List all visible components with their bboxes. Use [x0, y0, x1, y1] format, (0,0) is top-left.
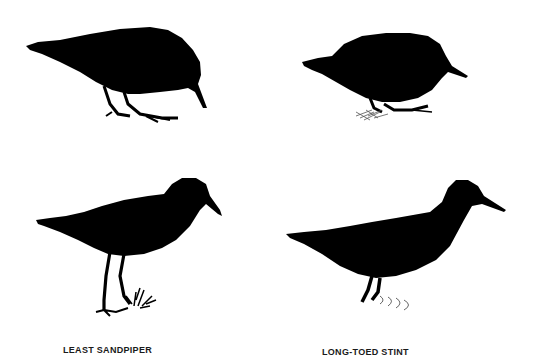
- bird-silhouette-figure: LEAST SANDPIPER LONG-TOED STINT: [0, 0, 534, 361]
- least-sandpiper-feeding-silhouette-icon: [0, 0, 534, 361]
- long-toed-stint-standing-silhouette-icon: [0, 0, 534, 361]
- long-toed-stint-feeding-silhouette-icon: [0, 0, 534, 361]
- least-sandpiper-standing-silhouette-icon: [0, 0, 534, 361]
- caption-least-sandpiper: LEAST SANDPIPER: [63, 345, 152, 355]
- caption-long-toed-stint: LONG-TOED STINT: [322, 347, 409, 357]
